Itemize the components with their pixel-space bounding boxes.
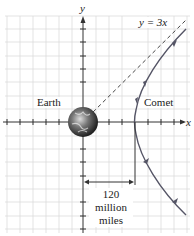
asymptote-label: y = 3x xyxy=(138,17,168,28)
x-axis-label: x xyxy=(186,117,191,128)
distance-value: 120 xyxy=(89,188,133,201)
distance-label: 120 million miles xyxy=(89,188,133,227)
earth-label: Earth xyxy=(37,97,61,108)
distance-unit-2: miles xyxy=(89,214,133,227)
arrow-left-icon xyxy=(84,180,89,185)
distance-unit-1: million xyxy=(89,201,133,214)
y-axis-arrow-icon xyxy=(81,16,86,23)
comet-label: Comet xyxy=(144,97,173,108)
y-axis-label: y xyxy=(80,3,85,14)
arrow-right-icon xyxy=(129,180,134,185)
